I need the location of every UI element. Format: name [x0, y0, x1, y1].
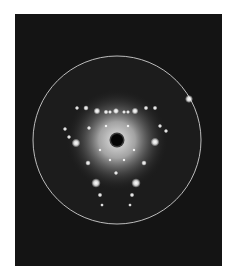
diffraction-spot	[158, 124, 162, 128]
diffraction-spot	[104, 110, 109, 115]
diffraction-spot	[122, 110, 126, 114]
diffraction-spot	[126, 110, 130, 114]
diffraction-spot	[94, 108, 101, 115]
diffraction-spot	[126, 124, 129, 127]
beam-stop	[110, 133, 125, 148]
diffraction-spot	[63, 127, 67, 131]
diffraction-spot	[85, 160, 90, 165]
diffraction-spot	[87, 126, 91, 130]
diffraction-spot	[131, 178, 141, 188]
diffraction-spot	[113, 108, 119, 114]
diffraction-spot	[98, 193, 103, 198]
diffraction-spot	[100, 203, 104, 207]
diffraction-spot	[122, 158, 125, 161]
diffraction-pattern	[0, 0, 234, 280]
diffraction-spot	[153, 106, 158, 111]
glint-spot	[185, 95, 193, 103]
diffraction-spot	[104, 124, 107, 127]
diffraction-spot	[144, 106, 149, 111]
diffraction-spot	[132, 108, 139, 115]
diffraction-spot	[67, 135, 71, 139]
diffraction-spot	[164, 129, 168, 133]
diffraction-spot	[151, 138, 160, 147]
diffraction-spot	[108, 110, 112, 114]
diffraction-spot	[98, 148, 101, 151]
diffraction-spot	[128, 203, 132, 207]
diffraction-spot	[114, 171, 118, 175]
diffraction-spot	[75, 106, 79, 110]
diffraction-spot	[83, 105, 88, 110]
diffraction-spot	[91, 178, 101, 188]
diffraction-spot	[132, 148, 135, 151]
diffraction-spot	[108, 158, 111, 161]
diffraction-spot	[141, 160, 146, 165]
diffraction-spot	[130, 193, 135, 198]
diffraction-spot	[72, 139, 81, 148]
